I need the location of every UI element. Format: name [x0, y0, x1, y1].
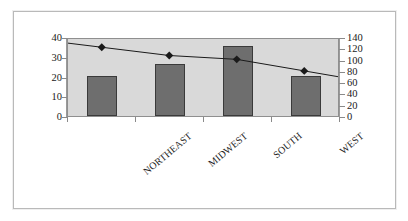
- right-axis-tick: [339, 94, 345, 95]
- category-label-northeast: NORTHEAST: [141, 130, 194, 177]
- left-axis-tick: [62, 97, 67, 98]
- right-axis-tick: [339, 117, 345, 118]
- category-tick: [67, 117, 68, 122]
- left-axis-tick: [62, 78, 67, 79]
- category-tick: [135, 117, 136, 122]
- chart-screenshot: 010203040 020406080100120140 NORTHEASTMI…: [0, 0, 408, 221]
- figure-frame: 010203040 020406080100120140 NORTHEASTMI…: [13, 11, 396, 209]
- category-tick: [271, 117, 272, 122]
- left-axis-tick: [62, 117, 67, 118]
- category-label-west: WEST: [337, 130, 365, 156]
- right-axis-tick: [339, 83, 345, 84]
- chart-canvas: 010203040 020406080100120140 NORTHEASTMI…: [14, 12, 395, 208]
- category-label-midwest: MIDWEST: [206, 130, 249, 169]
- left-axis-tick: [62, 38, 67, 39]
- right-axis-tick: [339, 106, 345, 107]
- right-axis-tick: [339, 49, 345, 50]
- category-axis: NORTHEASTMIDWESTSOUTHWEST: [14, 12, 395, 208]
- right-axis-tick: [339, 72, 345, 73]
- right-axis-tick: [339, 61, 345, 62]
- category-tick: [203, 117, 204, 122]
- left-axis-tick: [62, 58, 67, 59]
- right-axis-tick: [339, 38, 345, 39]
- category-label-south: SOUTH: [271, 130, 304, 160]
